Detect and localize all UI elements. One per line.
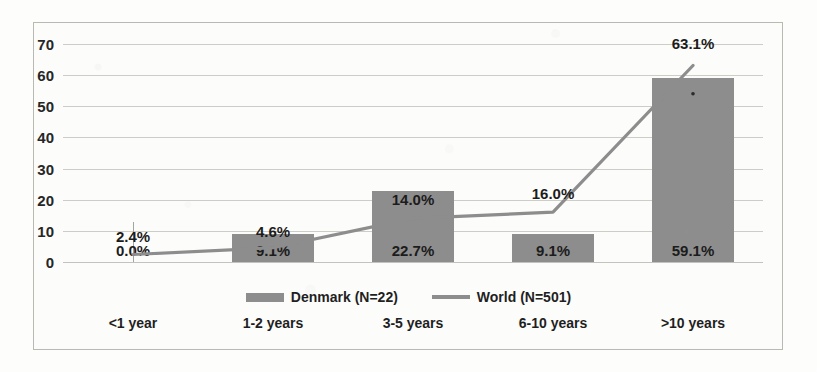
y-tick-label-30: 30 (37, 161, 54, 176)
x-category-label-4: >10 years (661, 316, 725, 330)
legend-item-0[interactable]: Denmark (N=22) (246, 290, 398, 304)
legend-item-1[interactable]: World (N=501) (432, 290, 571, 304)
y-tick-label-70: 70 (37, 37, 54, 52)
world-data-label-4: 63.1% (672, 36, 715, 51)
y-tick-label-50: 50 (37, 99, 54, 114)
chart-legend: Denmark (N=22)World (N=501) (0, 290, 817, 304)
gridline-0 (63, 262, 763, 263)
x-category-label-0: <1 year (109, 316, 158, 330)
x-category-label-1: 1-2 years (243, 316, 304, 330)
world-data-label-0: 2.4% (116, 229, 150, 244)
legend-bar-swatch-icon (246, 293, 284, 302)
world-data-label-2: 14.0% (392, 192, 435, 207)
plot-area: 010203040506070 0.0%9.1%22.7%9.1%59.1% 2… (63, 44, 763, 262)
y-tick-label-10: 10 (37, 223, 54, 238)
line-series-world (63, 44, 763, 262)
y-tick-label-60: 60 (37, 68, 54, 83)
x-category-label-3: 6-10 years (519, 316, 588, 330)
x-category-label-2: 3-5 years (383, 316, 444, 330)
legend-line-swatch-icon (432, 295, 470, 299)
world-data-label-1: 4.6% (256, 224, 290, 239)
world-data-label-3: 16.0% (532, 186, 575, 201)
legend-label-0: Denmark (N=22) (291, 290, 398, 304)
world-line-marker (691, 92, 695, 96)
world-line-path (133, 66, 693, 255)
legend-label-1: World (N=501) (477, 290, 571, 304)
y-tick-label-20: 20 (37, 192, 54, 207)
y-tick-label-0: 0 (46, 255, 54, 270)
y-tick-label-40: 40 (37, 130, 54, 145)
